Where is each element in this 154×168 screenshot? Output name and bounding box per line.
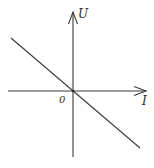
y-axis-label: U [78,8,88,20]
origin-point [72,90,75,93]
uig-diagram [0,0,154,168]
x-axis-label: I [142,95,147,107]
ui-line [11,38,140,148]
origin-label: 0 [59,95,65,105]
